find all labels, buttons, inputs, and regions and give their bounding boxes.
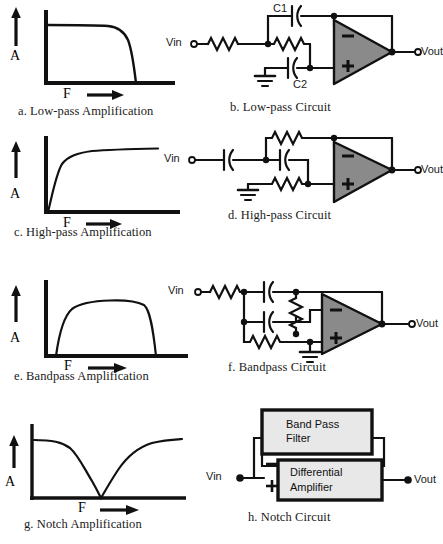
series-capacitor [280, 150, 289, 170]
caption-f: f. Bandpass Circuit [228, 360, 326, 375]
caption-h: h. Notch Circuit [248, 510, 331, 525]
vout-label: Vout [421, 45, 443, 57]
diffamp-input-signs [266, 464, 278, 492]
c1-label: C1 [273, 2, 287, 14]
diffamp-block-label-line2: Amplifier [290, 481, 333, 494]
vout-label: Vout [421, 163, 443, 175]
x-axis-label: F [63, 86, 71, 102]
vout-label: Vout [416, 317, 438, 329]
response-curve [47, 25, 136, 83]
top-capacitor [264, 282, 273, 302]
caption-c: c. High-pass Amplification [14, 225, 152, 240]
panel-h-notch-circuit: Band Pass Filter Differential Amplifier … [168, 404, 426, 508]
opamp-triangle [334, 20, 392, 84]
caption-d: d. High-pass Circuit [228, 208, 331, 223]
panel-d-highpass-circuit: Vin Vout [168, 118, 426, 218]
up-arrow-icon [11, 285, 21, 322]
bandpass-filter-block [262, 410, 372, 454]
node-dot-4 [389, 49, 396, 56]
right-arrow-icon [87, 90, 124, 100]
x-axis-label: F [78, 500, 86, 516]
capacitor-c1 [292, 6, 301, 26]
feedback-resistor [266, 132, 308, 160]
bottom-resistor [244, 322, 310, 348]
input-capacitor [224, 150, 233, 170]
vout-terminal [409, 321, 415, 327]
response-curve [34, 439, 182, 498]
feedback-resistor [268, 38, 310, 50]
bandpass-block-label-line2: Filter [286, 432, 310, 445]
ground-symbol [255, 76, 275, 86]
input-resistor [210, 286, 244, 298]
up-arrow-icon [9, 435, 19, 468]
right-arrow-icon [100, 505, 139, 515]
ground-resistor [264, 178, 308, 190]
vertical-resistor [290, 292, 302, 334]
response-curve [56, 300, 156, 356]
vout-terminal [405, 477, 411, 483]
node-dot-4 [389, 167, 396, 174]
y-axis-label: A [10, 330, 20, 346]
opamp-triangle [334, 142, 392, 202]
vin-label: Vin [166, 36, 182, 48]
panel-b-lowpass-circuit: Vin Vout C1 C2 [168, 0, 426, 100]
up-arrow-icon [11, 141, 21, 178]
bandpass-block-label-line1: Band Pass [286, 418, 339, 431]
y-axis-label: A [10, 48, 20, 64]
ground-symbol [238, 190, 258, 200]
vin-label: Vin [168, 284, 184, 296]
input-resistor [208, 38, 238, 50]
y-axis-label: A [10, 186, 20, 202]
highpass-circuit-schematic [168, 118, 426, 218]
opamp-triangle [322, 294, 382, 354]
capacitor-c2 [288, 58, 297, 78]
caption-a: a. Low-pass Amplification [18, 104, 153, 119]
caption-e: e. Bandpass Amplification [14, 369, 149, 384]
vin-label: Vin [206, 470, 222, 482]
mid-capacitor [264, 312, 273, 332]
caption-b: b. Low-pass Circuit [230, 100, 331, 115]
c2-label: C2 [293, 78, 307, 90]
vin-label: Vin [164, 152, 180, 164]
up-arrow-icon [11, 7, 21, 46]
node-dot-3 [293, 331, 299, 337]
node-dot-6 [379, 321, 386, 328]
panel-f-bandpass-circuit: Vin Vout [160, 272, 426, 370]
y-axis-label: A [5, 474, 15, 490]
caption-g: g. Notch Amplification [24, 517, 142, 532]
bandpass-circuit-schematic [160, 272, 426, 370]
response-curve [48, 149, 158, 213]
diffamp-block-label-line1: Differential [290, 466, 342, 479]
vout-label: Vout [414, 473, 436, 485]
